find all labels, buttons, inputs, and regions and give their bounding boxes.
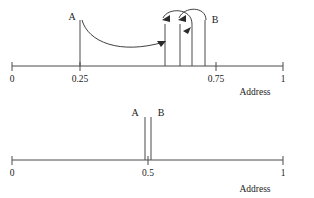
top-arrow-head-3 — [178, 15, 186, 22]
top-label-a: A — [68, 11, 76, 22]
bottom-tick-label-0: 0 — [10, 168, 15, 178]
top-arrow-head-2 — [162, 15, 170, 22]
bottom-tick-label-05: 0.5 — [142, 168, 154, 178]
top-label-b: B — [212, 14, 219, 25]
bottom-tick-label-1: 1 — [281, 168, 286, 178]
top-tick-label-075: 0.75 — [208, 74, 225, 84]
top-figure: 0 0.25 0.75 1 Address A B — [0, 0, 314, 99]
top-tick-label-025: 0.25 — [72, 74, 89, 84]
bottom-label-a: A — [131, 107, 139, 118]
bottom-axis-title: Address — [239, 184, 270, 194]
top-axis-title: Address — [239, 87, 270, 97]
top-tick-label-1: 1 — [281, 74, 286, 84]
bottom-figure: 0 0.5 1 Address A B — [0, 99, 314, 198]
top-arrow-curve-1 — [82, 20, 164, 47]
top-figure-canvas: 0 0.25 0.75 1 Address A B — [0, 0, 314, 99]
top-tick-label-0: 0 — [10, 74, 15, 84]
top-arrow-head-4 — [183, 27, 191, 34]
bottom-figure-canvas: 0 0.5 1 Address A B — [0, 99, 314, 198]
bottom-label-b: B — [158, 107, 165, 118]
